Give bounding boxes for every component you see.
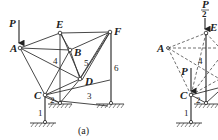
support-pin — [109, 101, 112, 104]
joint-e — [58, 31, 62, 35]
node-label-e: E — [55, 18, 63, 30]
ground-support — [30, 123, 56, 127]
node-label-c: C — [180, 89, 188, 101]
joint-e — [204, 31, 208, 35]
solid-member — [206, 92, 218, 103]
node-label-a: A — [156, 42, 164, 54]
node-label-b: B — [73, 46, 81, 58]
solid-member — [191, 88, 218, 95]
load-label: P — [9, 17, 16, 29]
node-label-f: F — [113, 25, 122, 37]
figure-b: P 2 P A E C 1 2 4 — [156, 0, 218, 127]
dashed-members-b — [168, 33, 218, 95]
joint-a — [167, 47, 170, 50]
node-label-c: C — [34, 89, 42, 101]
joint-c — [189, 93, 193, 97]
member-number: 2 — [50, 95, 55, 105]
ground-support — [176, 123, 202, 127]
truss-diagram: P A E B F D C 1 2 3 4 5 6 (a) — [0, 0, 218, 140]
node-label-e: E — [209, 21, 217, 33]
joint-f — [108, 30, 112, 34]
member-number: 2 — [196, 95, 201, 105]
figure-caption: (a) — [78, 125, 89, 137]
support-pin — [189, 120, 192, 123]
load-label: P — [181, 65, 188, 77]
joint-a — [18, 46, 22, 50]
member-number: 1 — [184, 108, 189, 118]
node-label-a: A — [9, 42, 17, 54]
member-number: 3 — [87, 91, 92, 101]
joint-b — [68, 48, 72, 52]
member-number: 1 — [38, 108, 43, 118]
support-pin — [204, 101, 207, 104]
support-pin — [43, 120, 46, 123]
load-denominator: 2 — [202, 9, 207, 19]
member-number: 4 — [198, 56, 203, 66]
joint-c — [43, 93, 47, 97]
member-number: 4 — [53, 56, 58, 66]
node-label-d: D — [84, 75, 93, 87]
support-pin — [58, 101, 61, 104]
joint-d — [78, 77, 82, 81]
figure-a: P A E B F D C 1 2 3 4 5 6 (a) — [9, 17, 124, 137]
member-number: 6 — [114, 63, 119, 73]
member-number: 5 — [84, 58, 89, 68]
